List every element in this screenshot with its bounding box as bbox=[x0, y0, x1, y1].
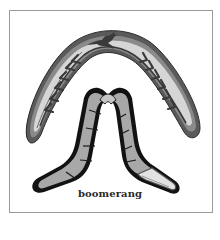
illustration-caption: boomerang bbox=[0, 188, 220, 199]
decorated-boomerang bbox=[26, 31, 200, 143]
